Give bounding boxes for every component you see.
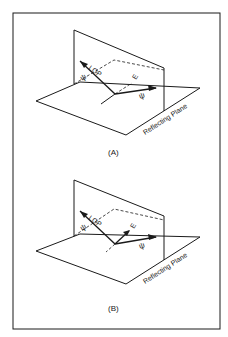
panel-b: LOP ψ ψ E Reflecting Plane (B): [36, 180, 200, 313]
vertical-plane-hidden-edge: [74, 209, 164, 236]
vertical-plane-edge: [74, 180, 164, 260]
e-label: E: [131, 73, 140, 81]
figure-border: [13, 13, 220, 329]
panel-caption: (B): [108, 304, 119, 313]
panel-a: LOP ψ ψ E Reflecting Plane (A): [36, 30, 200, 157]
vertical-plane-edge: [74, 30, 164, 111]
psi-right-label: ψ: [138, 90, 147, 101]
normal-line: [106, 244, 115, 252]
reflected-arrowhead: [148, 234, 157, 240]
panel-caption: (A): [108, 148, 119, 157]
vertical-plane-hidden-edge: [74, 60, 164, 84]
psi-left-label: ψ: [79, 72, 89, 83]
figure: LOP ψ ψ E Reflecting Plane (A) LOP ψ ψ E…: [0, 0, 228, 337]
psi-right-label: ψ: [138, 240, 147, 251]
reflecting-plane-label: Reflecting Plane: [142, 251, 189, 286]
reflecting-plane-label: Reflecting Plane: [142, 102, 189, 137]
e-label: E: [129, 222, 138, 230]
normal-line: [101, 94, 115, 104]
